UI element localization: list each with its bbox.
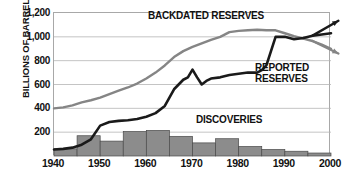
- x-tick-label: 1980: [215, 157, 261, 169]
- series-label-reported-line1: REPORTED: [255, 62, 309, 73]
- gridlines: [54, 37, 331, 132]
- x-tick-label: 1960: [122, 157, 168, 169]
- y-tick-label: 800: [8, 54, 50, 65]
- y-tick-label: 400: [8, 102, 50, 113]
- series-label-reported: REPORTED RESERVES: [255, 62, 309, 84]
- y-tick-label: 200: [8, 126, 50, 137]
- series-label-backdated: BACKDATED RESERVES: [148, 10, 264, 21]
- series-label-discoveries: DISCOVERIES: [196, 114, 262, 125]
- y-tick-label: 1,200: [8, 7, 50, 18]
- x-tick-label: 1950: [76, 157, 122, 169]
- x-tick-label: 1990: [261, 157, 307, 169]
- chart-svg: [54, 13, 331, 156]
- x-tick-label: 1970: [169, 157, 215, 169]
- series-label-reported-line2: RESERVES: [255, 73, 309, 84]
- x-tick-label: 2000: [307, 157, 344, 169]
- x-tick-label: 1940: [30, 157, 76, 169]
- chart-container: BILLIONS OF BARRELS 1,200 1,000 800 600 …: [0, 0, 344, 181]
- y-axis-tick-labels: 1,200 1,000 800 600 400 200: [6, 0, 50, 181]
- series-lines: [54, 30, 331, 150]
- y-tick-label: 600: [8, 78, 50, 89]
- y-tick-label: 1,000: [8, 30, 50, 41]
